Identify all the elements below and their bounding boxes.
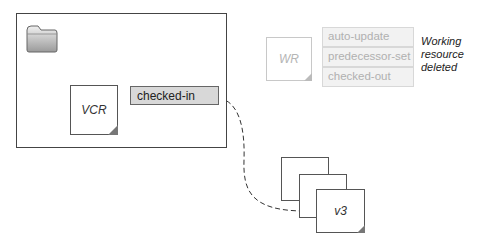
note-line: Working <box>421 35 464 48</box>
state-label: predecessor-set <box>328 50 410 62</box>
checked-in-label: checked-in <box>137 89 195 103</box>
checked-out-state: checked-out <box>322 67 414 87</box>
note-line: deleted <box>421 61 464 74</box>
state-label: auto-update <box>328 30 389 42</box>
v3-label: v3 <box>317 204 364 218</box>
folder-icon <box>25 24 59 54</box>
deleted-note: Working resource deleted <box>421 35 464 74</box>
note-line: resource <box>421 48 464 61</box>
page-curl-icon <box>304 73 312 81</box>
vcr-label: VCR <box>71 103 117 117</box>
wr-label: WR <box>267 52 311 66</box>
predecessor-set-state: predecessor-set <box>322 47 414 67</box>
state-label: checked-out <box>328 70 391 82</box>
auto-update-state: auto-update <box>322 27 414 47</box>
checked-in-state: checked-in <box>130 86 219 105</box>
page-curl-icon <box>108 125 118 135</box>
page-curl-icon <box>357 225 365 233</box>
